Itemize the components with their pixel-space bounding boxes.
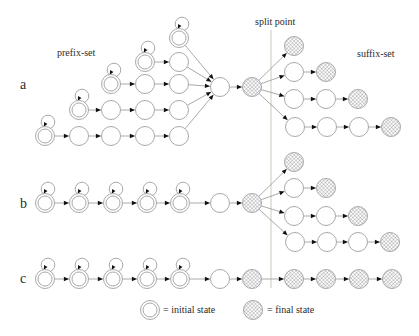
state-plain	[170, 127, 189, 146]
state-plain	[211, 194, 230, 213]
state-final	[350, 270, 369, 289]
state-final	[243, 270, 262, 289]
transition-edge	[259, 209, 287, 235]
state-final	[317, 270, 336, 289]
transition-arrowhead	[132, 201, 137, 205]
state-final	[349, 90, 368, 109]
state-plain	[136, 101, 155, 120]
legend-initial-label: = initial state	[163, 304, 216, 315]
transition-arrowhead	[279, 209, 284, 213]
state-plain	[317, 90, 336, 109]
self-loop-arrowhead	[44, 265, 48, 270]
transition-arrowhead	[311, 70, 316, 74]
self-loop-arrowhead	[179, 265, 183, 270]
transition-arrowhead	[96, 108, 101, 112]
transition-arrowhead	[96, 134, 101, 138]
self-loop-arrowhead	[78, 96, 82, 101]
transition-arrowhead	[377, 277, 382, 281]
state-final	[349, 207, 368, 226]
state-final	[243, 194, 262, 213]
transition-arrowhead	[64, 277, 69, 281]
transition-arrowhead	[375, 240, 380, 244]
transition-arrowhead	[311, 214, 316, 218]
transition-arrowhead	[279, 75, 284, 79]
state-plain	[350, 118, 369, 137]
self-loop-arrowhead	[178, 24, 182, 29]
state-final	[382, 118, 401, 137]
transition-arrowhead	[130, 108, 135, 112]
self-loop-arrowhead	[112, 189, 116, 194]
transition-arrowhead	[312, 125, 317, 129]
state-final	[383, 270, 402, 289]
transition-arrowhead	[164, 108, 169, 112]
self-loop-arrowhead	[78, 265, 82, 270]
transition-arrowhead	[237, 201, 242, 205]
transition-arrowhead	[312, 240, 317, 244]
state-plain	[136, 75, 155, 94]
state-plain	[102, 127, 121, 146]
transition-arrowhead	[130, 134, 135, 138]
state-plain	[286, 233, 305, 252]
self-loop-arrowhead	[110, 70, 114, 75]
suffix-set-label: suffix-set	[357, 48, 395, 59]
transition-arrowhead	[98, 277, 103, 281]
transition-arrowhead	[132, 277, 137, 281]
transition-arrowhead	[279, 277, 284, 281]
transition-arrowhead	[279, 191, 284, 195]
state-plain	[318, 233, 337, 252]
legend-final-state	[244, 301, 263, 320]
transition-arrowhead	[311, 186, 316, 190]
transition-arrowhead	[344, 125, 349, 129]
state-plain	[286, 118, 305, 137]
transition-arrowhead	[343, 214, 348, 218]
transition-edge	[259, 93, 288, 120]
figure-canvas: prefix-set split point suffix-set a b c …	[0, 0, 419, 336]
state-plain	[136, 127, 155, 146]
transition-arrowhead	[164, 134, 169, 138]
state-plain	[102, 101, 121, 120]
state-final	[381, 233, 400, 252]
state-final	[285, 153, 304, 172]
transition-arrowhead	[343, 240, 348, 244]
self-loop-arrowhead	[112, 265, 116, 270]
transition-arrowhead	[165, 277, 170, 281]
state-plain	[318, 118, 337, 137]
transition-edge	[185, 95, 213, 129]
state-plain	[170, 101, 189, 120]
transition-arrowhead	[343, 97, 348, 101]
state-plain	[349, 233, 368, 252]
state-final	[317, 63, 336, 82]
transition-arrowhead	[311, 97, 316, 101]
prefix-set-label: prefix-set	[57, 47, 96, 58]
transition-arrowhead	[376, 125, 381, 129]
transition-arrowhead	[205, 201, 210, 205]
transition-arrowhead	[64, 201, 69, 205]
legend-final-label: = final state	[267, 304, 315, 315]
state-final	[317, 179, 336, 198]
state-plain	[285, 179, 304, 198]
state-plain	[170, 53, 189, 72]
state-plain	[317, 207, 336, 226]
self-loop-arrowhead	[146, 265, 150, 270]
split-point-label: split point	[255, 16, 296, 27]
transition-arrowhead	[205, 277, 210, 281]
transition-arrowhead	[164, 60, 169, 64]
self-loop-arrowhead	[44, 189, 48, 194]
transition-arrowhead	[237, 277, 242, 281]
state-plain	[285, 90, 304, 109]
row-label-a: a	[20, 77, 27, 92]
self-loop-arrowhead	[78, 189, 82, 194]
transition-arrowhead	[237, 85, 242, 89]
state-plain	[170, 75, 189, 94]
row-label-c: c	[20, 271, 26, 286]
self-loop-arrowhead	[146, 189, 150, 194]
self-loop-arrowhead	[179, 189, 183, 194]
state-plain	[285, 63, 304, 82]
transition-arrowhead	[130, 82, 135, 86]
row-label-b: b	[20, 196, 27, 211]
state-plain	[211, 78, 230, 97]
self-loop-arrowhead	[44, 122, 48, 127]
transition-arrowhead	[205, 84, 210, 88]
transition-arrowhead	[344, 277, 349, 281]
transition-arrowhead	[279, 93, 284, 97]
